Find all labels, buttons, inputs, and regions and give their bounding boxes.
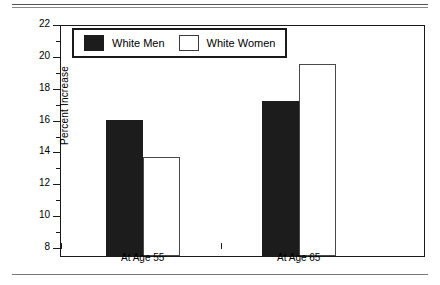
legend-swatch-hollow-icon [179, 35, 199, 51]
y-tick-label-22: 22 [39, 18, 50, 29]
x-tick-mark-2 [424, 243, 425, 249]
x-tick-mark-0 [61, 243, 62, 249]
y-tick-mark-15 [56, 137, 60, 138]
bar-at-age-55-white-men [106, 120, 143, 256]
bar-chart-figure: Percent Increase 222018161412108 At Age … [0, 16, 440, 266]
bars-layer [61, 26, 424, 256]
y-tick-mark-20 [53, 57, 60, 58]
y-tick-mark-18 [53, 89, 60, 90]
x-tick-mark-1 [221, 243, 222, 249]
y-tick-mark-17 [56, 105, 60, 106]
y-tick-mark-16 [53, 121, 60, 122]
bar-at-age-55-white-women [143, 157, 180, 256]
bar-at-age-65-white-women [299, 64, 336, 256]
bar-at-age-65-white-men [262, 101, 299, 256]
y-tick-label-14: 14 [39, 145, 50, 156]
legend-item-white-women: White Women [179, 35, 276, 51]
y-tick-mark-13 [56, 168, 60, 169]
legend-label-white-men: White Men [112, 37, 165, 49]
legend-item-white-men: White Men [84, 35, 165, 51]
y-tick-label-20: 20 [39, 50, 50, 61]
y-tick-mark-14 [53, 152, 60, 153]
legend-label-white-women: White Women [207, 37, 276, 49]
page-rule-bottom [12, 274, 428, 275]
y-tick-mark-9 [56, 232, 60, 233]
y-tick-label-18: 18 [39, 82, 50, 93]
x-axis-label-at-age-55: At Age 55 [121, 252, 164, 263]
chart-legend: White Men White Women [72, 28, 287, 58]
page-rule-top-outer [12, 4, 428, 5]
legend-swatch-filled-icon [84, 35, 104, 51]
y-tick-mark-22 [53, 25, 60, 26]
page-rule-top-inner [12, 7, 428, 8]
y-tick-mark-8 [53, 248, 60, 249]
y-tick-mark-10 [53, 216, 60, 217]
y-tick-label-12: 12 [39, 177, 50, 188]
y-tick-mark-12 [53, 184, 60, 185]
y-tick-mark-11 [56, 200, 60, 201]
y-tick-label-8: 8 [44, 241, 50, 252]
x-axis-label-at-age-65: At Age 65 [277, 252, 320, 263]
y-tick-mark-21 [56, 41, 60, 42]
y-tick-label-10: 10 [39, 209, 50, 220]
y-tick-mark-19 [56, 73, 60, 74]
y-tick-label-16: 16 [39, 114, 50, 125]
